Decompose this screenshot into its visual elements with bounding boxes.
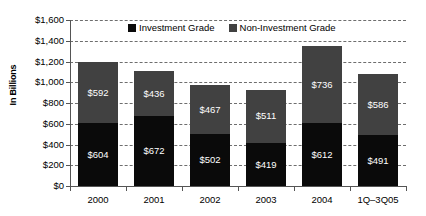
bar-group[interactable]: $436$672 bbox=[134, 71, 174, 186]
chart-legend: Investment Grade Non-Investment Grade bbox=[126, 21, 338, 34]
legend-swatch-icon bbox=[229, 24, 237, 32]
y-axis-tick-label: $400 bbox=[8, 139, 64, 150]
y-axis-tick-label: $800 bbox=[8, 97, 64, 108]
x-axis-tick-label: 1Q–3Q05 bbox=[338, 194, 418, 205]
x-axis-tick-mark bbox=[182, 186, 183, 191]
bar-segment-non-investment-grade[interactable]: $511 bbox=[246, 90, 286, 143]
y-axis-tick-label: $0 bbox=[8, 180, 64, 191]
y-axis-tick-label: $1,600 bbox=[8, 14, 64, 25]
bar-value-label: $586 bbox=[367, 100, 388, 110]
bar-group[interactable]: $586$491 bbox=[358, 74, 398, 186]
bar-segment-investment-grade[interactable]: $672 bbox=[134, 116, 174, 186]
bar-segment-non-investment-grade[interactable]: $592 bbox=[78, 62, 118, 123]
bar-value-label: $419 bbox=[255, 160, 276, 170]
bar-group[interactable]: $592$604 bbox=[78, 62, 118, 186]
x-axis-tick-mark bbox=[350, 186, 351, 191]
x-axis-tick-mark bbox=[294, 186, 295, 191]
bar-value-label: $467 bbox=[199, 105, 220, 115]
legend-label: Non-Investment Grade bbox=[240, 22, 336, 33]
bar-value-label: $736 bbox=[311, 80, 332, 90]
bar-segment-non-investment-grade[interactable]: $467 bbox=[190, 85, 230, 133]
bar-group[interactable]: $736$612 bbox=[302, 46, 342, 186]
bar-value-label: $612 bbox=[311, 150, 332, 160]
y-axis-tick-label: $1,400 bbox=[8, 35, 64, 46]
bar-group[interactable]: $467$502 bbox=[190, 85, 230, 186]
x-axis-tick-mark bbox=[406, 186, 407, 191]
x-axis-tick-mark bbox=[126, 186, 127, 191]
y-axis-tick-label: $1,200 bbox=[8, 56, 64, 67]
bar-segment-non-investment-grade[interactable]: $736 bbox=[302, 46, 342, 122]
bar-value-label: $511 bbox=[256, 111, 276, 121]
legend-item-investment-grade: Investment Grade bbox=[128, 22, 215, 33]
bar-segment-investment-grade[interactable]: $612 bbox=[302, 123, 342, 186]
bar-segment-investment-grade[interactable]: $604 bbox=[78, 123, 118, 186]
bar-value-label: $672 bbox=[143, 146, 164, 156]
bar-value-label: $491 bbox=[367, 156, 388, 166]
x-axis-tick-mark bbox=[238, 186, 239, 191]
bar-segment-investment-grade[interactable]: $502 bbox=[190, 134, 230, 186]
legend-swatch-icon bbox=[128, 24, 136, 32]
y-axis-tick-label: $200 bbox=[8, 159, 64, 170]
bar-series-layer: $592$604$436$672$467$502$511$419$736$612… bbox=[70, 20, 406, 186]
bar-value-label: $436 bbox=[143, 89, 164, 99]
x-axis-tick-mark bbox=[70, 186, 71, 191]
bar-value-label: $604 bbox=[87, 150, 108, 160]
stacked-bar-chart: In Billions $0$200$400$600$800$1,000$1,2… bbox=[0, 0, 426, 216]
legend-item-non-investment-grade: Non-Investment Grade bbox=[229, 22, 336, 33]
y-axis-tick-label: $600 bbox=[8, 118, 64, 129]
bar-value-label: $592 bbox=[87, 88, 108, 98]
bar-value-label: $502 bbox=[199, 155, 220, 165]
bar-segment-investment-grade[interactable]: $419 bbox=[246, 143, 286, 186]
bar-segment-non-investment-grade[interactable]: $436 bbox=[134, 71, 174, 116]
y-axis-tick-label: $1,000 bbox=[8, 76, 64, 87]
legend-label: Investment Grade bbox=[139, 22, 215, 33]
bar-segment-non-investment-grade[interactable]: $586 bbox=[358, 74, 398, 135]
bar-segment-investment-grade[interactable]: $491 bbox=[358, 135, 398, 186]
bar-group[interactable]: $511$419 bbox=[246, 90, 286, 186]
